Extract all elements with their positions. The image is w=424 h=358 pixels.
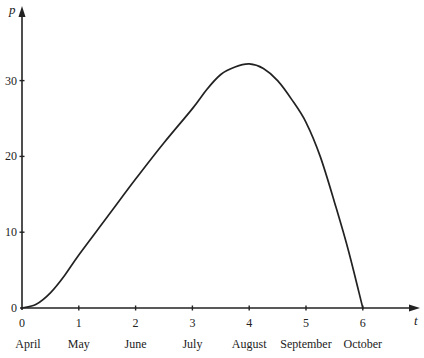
month-label: September: [280, 338, 331, 350]
month-label: October: [343, 338, 382, 350]
x-tick-label: 1: [76, 317, 82, 329]
x-tick-label: 6: [360, 317, 366, 329]
month-label: April: [15, 338, 40, 350]
y-tick-label: 0: [11, 302, 17, 314]
y-axis-arrow-icon: [19, 6, 26, 17]
x-axis-label: t: [414, 315, 418, 327]
x-axis-arrow-icon: [409, 305, 420, 312]
data-curve: [22, 64, 363, 308]
x-tick-label: 2: [133, 317, 139, 329]
month-label: June: [125, 338, 147, 350]
month-label: August: [232, 338, 267, 350]
month-label: May: [68, 338, 90, 350]
y-tick-label: 10: [5, 226, 17, 238]
y-axis: [19, 6, 26, 310]
x-tick-label: 3: [189, 317, 195, 329]
y-tick-label: 30: [5, 75, 17, 87]
x-tick-label: 4: [246, 317, 252, 329]
y-axis-label: p: [9, 4, 16, 16]
chart-canvas: [0, 0, 424, 358]
x-tick-label: 0: [19, 317, 25, 329]
x-axis: [20, 305, 420, 312]
y-tick-label: 20: [5, 150, 17, 162]
month-label: July: [182, 338, 202, 350]
x-tick-label: 5: [303, 317, 309, 329]
